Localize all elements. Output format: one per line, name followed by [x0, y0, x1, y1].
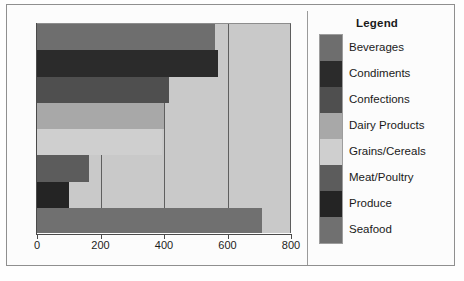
legend-swatch-dairy-products — [320, 113, 342, 139]
legend-label-beverages: Beverages — [349, 34, 426, 60]
legend-label-column: BeveragesCondimentsConfectionsDairy Prod… — [349, 34, 426, 242]
legend-label-seafood: Seafood — [349, 216, 426, 242]
y-axis-line — [36, 23, 37, 235]
screenshot-root: 0200400600800 Legend BeveragesCondiments… — [0, 0, 464, 281]
legend-label-meat-poultry: Meat/Poultry — [349, 164, 426, 190]
legend-label-produce: Produce — [349, 190, 426, 216]
legend-label-dairy-products: Dairy Products — [349, 112, 426, 138]
legend-swatch-seafood — [320, 217, 342, 243]
legend: Legend BeveragesCondimentsConfectionsDai… — [307, 11, 457, 265]
legend-label-confections: Confections — [349, 86, 426, 112]
bar-produce — [37, 182, 69, 208]
bar-beverages — [37, 24, 215, 50]
chart-plot-wrapper: 0200400600800 — [30, 23, 294, 252]
bar-condiments — [37, 50, 218, 76]
x-tick-label-400: 400 — [155, 239, 173, 251]
gridline-600 — [228, 24, 229, 233]
bar-meat-poultry — [37, 155, 89, 181]
legend-label-condiments: Condiments — [349, 60, 426, 86]
legend-swatch-beverages — [320, 35, 342, 61]
legend-swatch-column — [319, 34, 343, 244]
legend-swatch-grains-cereals — [320, 139, 342, 165]
legend-swatch-confections — [320, 87, 342, 113]
bar-seafood — [37, 208, 262, 233]
legend-swatch-meat-poultry — [320, 165, 342, 191]
bar-grains-cereals — [37, 129, 162, 155]
bar-dairy-products — [37, 103, 164, 129]
legend-swatch-condiments — [320, 61, 342, 87]
chart-plot-area — [37, 23, 291, 233]
chart-card: 0200400600800 Legend BeveragesCondiments… — [6, 4, 455, 266]
x-tick-label-800: 800 — [282, 239, 300, 251]
legend-title: Legend — [356, 17, 398, 29]
legend-label-grains-cereals: Grains/Cereals — [349, 138, 426, 164]
bar-confections — [37, 77, 169, 103]
x-tick-label-600: 600 — [218, 239, 236, 251]
x-tick-label-200: 200 — [91, 239, 109, 251]
legend-swatch-produce — [320, 191, 342, 217]
x-tick-label-0: 0 — [34, 239, 40, 251]
